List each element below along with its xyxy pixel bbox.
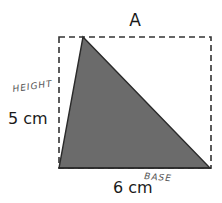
triangle [59,37,210,168]
height-value-label: 5 cm [8,109,48,128]
diagram-title: A [129,10,141,30]
triangle-area-diagram: A 5 cm 6 cm HEIGHT BASE [0,0,222,203]
height-annotation: HEIGHT [12,78,54,94]
